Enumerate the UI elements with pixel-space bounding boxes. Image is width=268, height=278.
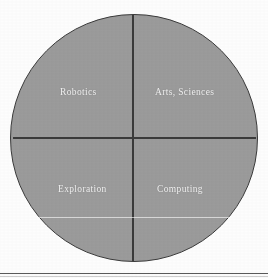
figure-page: Robotics Arts, Sciences Exploration Comp… [0,0,268,278]
quadrant-label-bottom-left: Exploration [58,184,107,194]
light-chord-line [35,217,233,218]
horizontal-divider-line [13,137,256,139]
quadrant-label-top-right: Arts, Sciences [155,87,214,97]
quadrant-circle-diagram: Robotics Arts, Sciences Exploration Comp… [0,0,268,278]
quadrant-label-bottom-right: Computing [157,184,203,194]
vertical-divider-line [132,15,134,261]
bottom-horizontal-rule [0,273,268,274]
bottom-horizontal-rule-secondary [0,276,268,277]
quadrant-label-top-left: Robotics [60,87,97,97]
